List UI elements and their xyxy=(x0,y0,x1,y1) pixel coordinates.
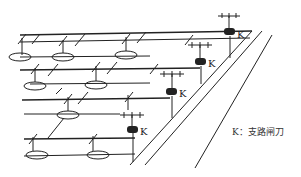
switch-icon xyxy=(127,126,138,133)
legend-symbol: K xyxy=(232,127,239,137)
legend: K：支路闸刀 xyxy=(232,125,284,138)
legend-description: 支路闸刀 xyxy=(248,127,284,137)
switch-label: K xyxy=(237,29,245,40)
legend-separator: ： xyxy=(239,127,248,137)
switch-icon xyxy=(224,28,235,35)
wiring-diagram: K K K K xyxy=(0,0,301,177)
switch-label: K xyxy=(179,88,187,99)
switch-icon xyxy=(195,58,206,65)
switch-label: K xyxy=(208,58,216,69)
switch-icon xyxy=(166,88,177,95)
switch-label: K xyxy=(140,126,148,137)
